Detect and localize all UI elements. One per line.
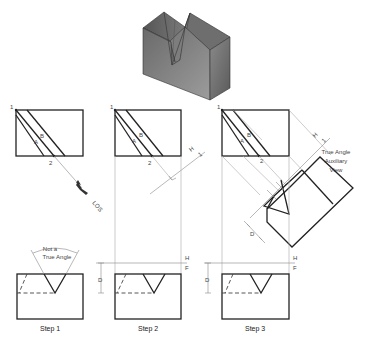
drawing-canvas: 1 2 A B LOS Not a True Angle Step 1 1 2 … [0,0,376,345]
step1-front-view: Not a True Angle Step 1 [17,246,83,333]
step3-label-h: H [311,131,318,138]
step3-label-a: A [240,138,244,144]
label-los: LOS [91,200,103,213]
label-not-a: Not a [43,246,58,252]
step2-label-1: 1 [110,104,114,110]
step1-top-view: 1 2 A B LOS [10,104,104,213]
step2-label-a: A [132,138,136,144]
step2-label-b: B [139,132,143,138]
step3-label-F: F [293,265,297,271]
step3-label-1: 1 [217,104,221,110]
step1-label: Step 1 [40,325,60,333]
label-line-a: A [34,139,38,145]
isometric-block [143,12,230,100]
step3-label-D: D [205,277,210,283]
fold-line-h1 [150,152,205,194]
step3-label-H: H [293,255,297,261]
step2-label-2: 2 [148,160,152,166]
step2-label-h: H [188,145,195,152]
step2-label: Step 2 [138,325,158,333]
step3-aux-label-D: D [250,231,255,237]
step2-front-view: H F D Step 2 [96,255,189,333]
step2-label-H: H [185,255,189,261]
label-true-angle: True Angle [43,254,72,260]
label-point-1: 1 [10,104,14,110]
step3-label-one: 1 [320,137,327,144]
los-arrow-icon [76,182,88,195]
fold-line-h1-step3 [250,138,330,218]
step3-label-b: B [247,132,251,138]
label-line-b: B [40,133,44,139]
step2-label-F: F [185,265,189,271]
step3-label: Step 3 [245,325,265,333]
step2-label-one: 1 [197,151,204,158]
aux-label-line1: True Angle [322,149,351,155]
label-point-2: 2 [49,160,53,166]
step2-label-D: D [98,277,103,283]
step2-top-view: 1 2 A B H 1 [110,104,205,274]
aux-label-line2: Auxiliary [325,158,348,164]
